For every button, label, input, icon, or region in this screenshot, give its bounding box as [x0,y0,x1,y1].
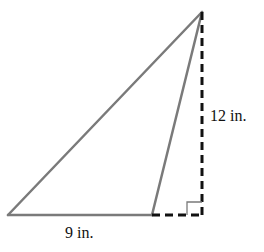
base-label: 9 in. [65,224,93,241]
right-angle-marker [187,202,202,215]
height-label: 12 in. [210,107,246,124]
side-left [8,12,202,215]
side-right [152,12,202,215]
triangle-diagram: 12 in. 9 in. [0,0,264,252]
